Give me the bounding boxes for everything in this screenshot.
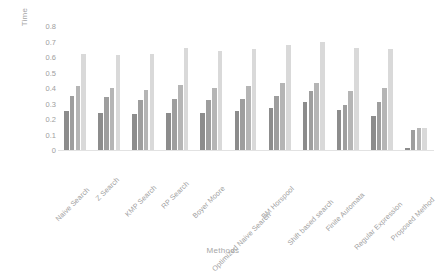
bar bbox=[280, 83, 285, 150]
bar-group bbox=[263, 26, 297, 150]
bar bbox=[337, 110, 342, 150]
bar-group bbox=[126, 26, 160, 150]
bar bbox=[76, 86, 81, 150]
y-tick-label: 0.7 bbox=[46, 37, 56, 46]
bar-groups bbox=[58, 26, 433, 150]
bar bbox=[417, 128, 422, 150]
bar-chart: Time 0.80.70.60.50.40.30.20.10 Naive Sea… bbox=[0, 0, 446, 280]
x-tick-label: Finite Automata bbox=[323, 190, 366, 233]
bar bbox=[320, 42, 325, 151]
bar bbox=[235, 111, 240, 150]
y-tick-label: 0.5 bbox=[46, 68, 56, 77]
bar bbox=[405, 148, 410, 150]
x-tick-label: Optimized Naive Search bbox=[209, 210, 272, 273]
bar bbox=[110, 88, 115, 150]
bar bbox=[64, 111, 69, 150]
bar bbox=[240, 99, 245, 150]
bar bbox=[303, 102, 308, 150]
y-tick-label: 0.8 bbox=[46, 22, 56, 31]
bar bbox=[422, 128, 427, 150]
bar bbox=[144, 90, 149, 150]
bar-group bbox=[331, 26, 365, 150]
bar bbox=[411, 130, 416, 150]
x-tick-label: Naive Search bbox=[54, 185, 92, 223]
y-tick-label: 0.6 bbox=[46, 53, 56, 62]
bar bbox=[116, 55, 121, 150]
bar bbox=[104, 97, 109, 150]
bar bbox=[206, 100, 211, 150]
bar bbox=[246, 86, 251, 150]
bar bbox=[218, 51, 223, 150]
bar bbox=[166, 113, 171, 150]
bar bbox=[377, 102, 382, 150]
y-axis-title: Time bbox=[20, 0, 29, 52]
x-axis-tick-labels: Naive SearchZ SearchKMP SearchRP SearchB… bbox=[58, 152, 433, 247]
bar bbox=[178, 85, 183, 150]
bar bbox=[314, 83, 319, 150]
bar bbox=[286, 45, 291, 150]
x-tick-label: Boyer Moore bbox=[191, 184, 227, 220]
x-tick-label: Z Search bbox=[94, 175, 122, 203]
bar bbox=[138, 100, 143, 150]
bar-group bbox=[297, 26, 331, 150]
x-axis-title: Methods bbox=[0, 246, 446, 255]
x-axis-line bbox=[58, 150, 434, 151]
bar bbox=[269, 108, 274, 150]
bar bbox=[274, 96, 279, 150]
bar bbox=[98, 113, 103, 150]
bar bbox=[371, 116, 376, 150]
y-tick-label: 0.4 bbox=[46, 84, 56, 93]
y-tick-label: 0.1 bbox=[46, 130, 56, 139]
bar bbox=[150, 54, 155, 150]
bar bbox=[212, 88, 217, 150]
bar-group bbox=[194, 26, 228, 150]
bar bbox=[354, 48, 359, 150]
bar bbox=[382, 88, 387, 150]
bar-group bbox=[365, 26, 399, 150]
bar bbox=[200, 113, 205, 150]
bar bbox=[343, 105, 348, 150]
bar bbox=[81, 54, 86, 150]
bar bbox=[132, 114, 137, 150]
x-tick-label: KMP Search bbox=[123, 183, 159, 219]
bar bbox=[348, 91, 353, 150]
bar bbox=[252, 49, 257, 150]
bar-group bbox=[92, 26, 126, 150]
y-tick-label: 0.2 bbox=[46, 115, 56, 124]
bar-group bbox=[399, 26, 433, 150]
bar-group bbox=[228, 26, 262, 150]
x-tick-label: BM Horspool bbox=[259, 184, 296, 221]
x-tick-label: Regular Expression bbox=[352, 200, 404, 252]
bar bbox=[388, 49, 393, 150]
y-axis-tick-labels: 0.80.70.60.50.40.30.20.10 bbox=[38, 20, 56, 156]
bar bbox=[172, 99, 177, 150]
y-tick-label: 0.3 bbox=[46, 99, 56, 108]
x-tick-label: RP Search bbox=[160, 179, 191, 210]
plot-area bbox=[58, 26, 433, 150]
bar bbox=[309, 91, 314, 150]
y-tick-label: 0 bbox=[52, 146, 56, 155]
bar bbox=[184, 48, 189, 150]
bar-group bbox=[160, 26, 194, 150]
bar-group bbox=[58, 26, 92, 150]
bar bbox=[70, 96, 75, 150]
